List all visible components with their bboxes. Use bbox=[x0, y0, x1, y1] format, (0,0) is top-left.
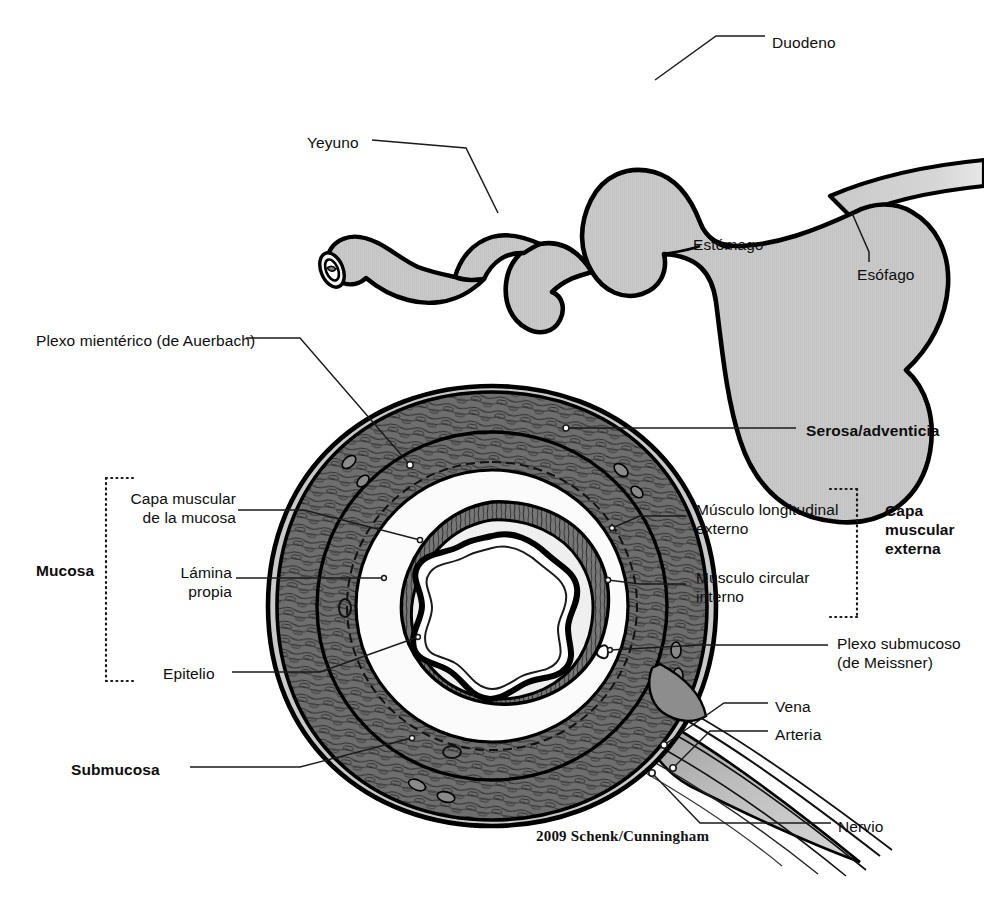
label-submucosa: Submucosa bbox=[71, 760, 160, 779]
label-esofago: Esófago bbox=[857, 265, 915, 284]
label-musculo-circular-interno: Músculo circular interno bbox=[696, 568, 810, 606]
label-arteria: Arteria bbox=[775, 725, 821, 744]
label-capa-muscular-externa: Capa muscular externa bbox=[885, 501, 955, 558]
label-serosa-adventicia: Serosa/adventicia bbox=[806, 421, 940, 440]
label-nervio: Nervio bbox=[838, 817, 883, 836]
label-lamina-propia: Lámina propia bbox=[168, 563, 232, 601]
duodenum-shape bbox=[506, 243, 592, 332]
label-vena: Vena bbox=[775, 697, 811, 716]
label-plexo-submucoso: Plexo submucoso (de Meissner) bbox=[837, 634, 961, 672]
label-musculo-longitudinal-externo: Músculo longitudinal externo bbox=[696, 500, 838, 538]
label-duodeno: Duodeno bbox=[772, 33, 836, 52]
label-estomago: Estómago bbox=[693, 235, 764, 254]
credit-line: 2009 Schenk/Cunningham bbox=[536, 828, 709, 845]
label-plexo-mienterico: Plexo mientérico (de Auerbach) bbox=[36, 331, 255, 350]
figure-page: Duodeno Yeyuno Estómago Esófago Plexo mi… bbox=[0, 0, 984, 900]
label-epitelio: Epitelio bbox=[163, 664, 215, 683]
label-capa-muscular-mucosa: Capa muscular de la mucosa bbox=[112, 489, 236, 527]
label-yeyuno: Yeyuno bbox=[307, 133, 359, 152]
label-mucosa: Mucosa bbox=[36, 561, 94, 580]
leader-duodeno bbox=[655, 36, 765, 80]
leader-yeyuno bbox=[372, 140, 498, 213]
